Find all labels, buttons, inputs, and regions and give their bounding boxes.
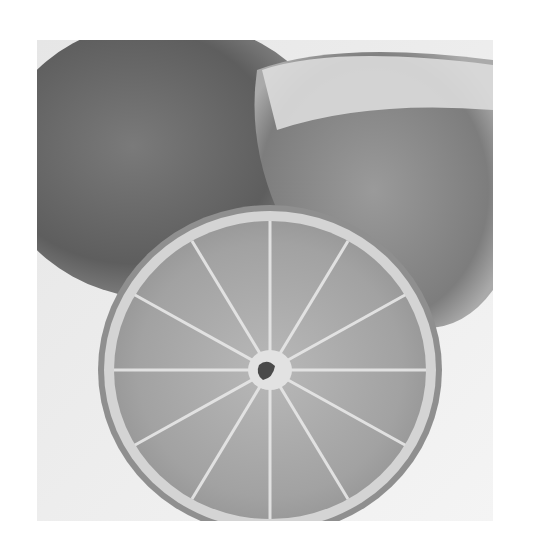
citrus-illustration [37, 40, 493, 521]
citrus-photo [37, 40, 493, 521]
sliced-fruit [98, 205, 442, 521]
